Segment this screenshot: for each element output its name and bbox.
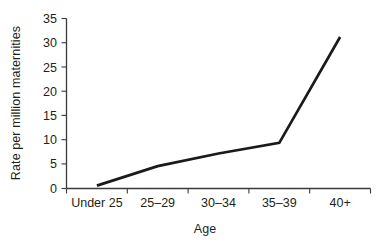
y-tick-label-25: 25 bbox=[43, 61, 57, 75]
x-tick-label-35-39: 35–39 bbox=[262, 196, 297, 210]
x-tick-label-30-34: 30–34 bbox=[201, 196, 236, 210]
y-tick-label-10: 10 bbox=[43, 133, 57, 147]
y-tick-label-20: 20 bbox=[43, 85, 57, 99]
x-tick-label-40-plus: 40+ bbox=[329, 196, 350, 210]
y-tick-label-5: 5 bbox=[50, 157, 57, 171]
x-tick-label-25-29: 25–29 bbox=[140, 196, 175, 210]
chart-canvas: 35 30 25 20 15 10 5 0 Under 25 25–29 30–… bbox=[0, 0, 378, 247]
x-axis-title: Age bbox=[194, 222, 217, 236]
y-axis-title: Rate per million maternities bbox=[9, 26, 23, 180]
x-tick-label-under-25: Under 25 bbox=[71, 196, 122, 210]
line-chart-figure: 35 30 25 20 15 10 5 0 Under 25 25–29 30–… bbox=[0, 0, 378, 247]
y-tick-label-15: 15 bbox=[43, 109, 57, 123]
y-tick-label-30: 30 bbox=[43, 36, 57, 50]
y-tick-label-0: 0 bbox=[50, 182, 57, 196]
y-tick-label-35: 35 bbox=[43, 12, 57, 26]
